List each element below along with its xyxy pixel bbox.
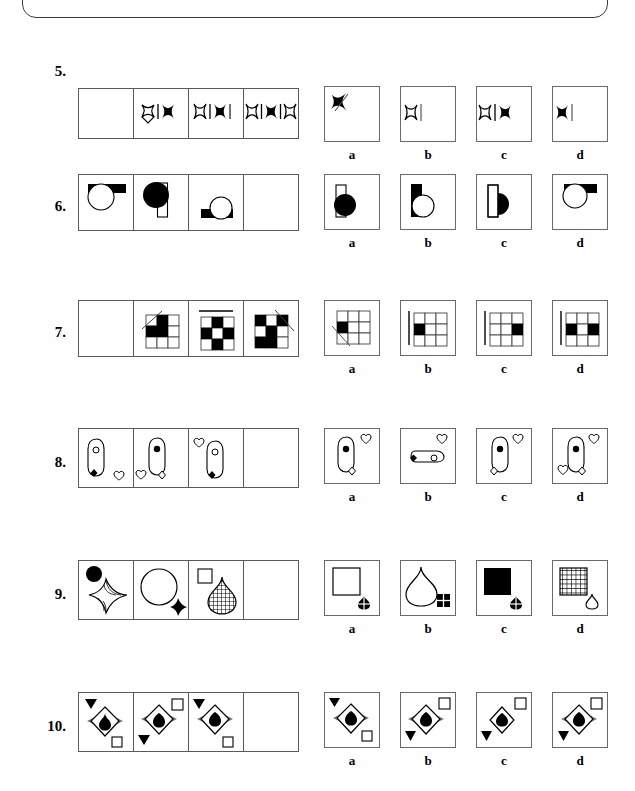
sequence-cell-8-3[interactable]	[188, 428, 244, 488]
option-box-9-d[interactable]	[552, 560, 608, 616]
option-9-c[interactable]: c	[476, 560, 532, 637]
option-box-5-d[interactable]	[552, 86, 608, 142]
option-6-c[interactable]: c	[476, 174, 532, 251]
option-box-8-d[interactable]	[552, 428, 608, 484]
sequence-cell-7-1[interactable]	[78, 300, 134, 357]
option-7-a[interactable]: a	[324, 300, 380, 377]
option-label-6-a: a	[324, 235, 380, 251]
option-label-8-a: a	[324, 489, 380, 505]
option-box-5-b[interactable]	[400, 86, 456, 142]
option-box-6-b[interactable]	[400, 174, 456, 230]
option-box-7-c[interactable]	[476, 300, 532, 356]
option-label-9-d: d	[552, 621, 608, 637]
sequence-cell-6-4[interactable]	[243, 174, 299, 231]
option-box-8-b[interactable]	[400, 428, 456, 484]
sequence-cell-5-2[interactable]	[133, 88, 189, 139]
option-label-5-b: b	[400, 147, 456, 163]
option-box-10-d[interactable]	[552, 692, 608, 748]
sequence-strip-5	[78, 88, 299, 139]
option-7-c[interactable]: c	[476, 300, 532, 377]
option-9-d[interactable]: d	[552, 560, 608, 637]
sequence-cell-9-1[interactable]	[78, 560, 134, 620]
sequence-cell-10-3[interactable]	[188, 692, 244, 752]
option-box-7-d[interactable]	[552, 300, 608, 356]
option-box-10-c[interactable]	[476, 692, 532, 748]
option-box-7-a[interactable]	[324, 300, 380, 356]
option-label-7-c: c	[476, 361, 532, 377]
row-number-10: 10.	[24, 718, 66, 735]
option-label-5-c: c	[476, 147, 532, 163]
option-label-9-a: a	[324, 621, 380, 637]
sequence-cell-6-3[interactable]	[188, 174, 244, 231]
option-label-10-c: c	[476, 753, 532, 769]
sequence-cell-9-4[interactable]	[243, 560, 299, 620]
option-box-10-b[interactable]	[400, 692, 456, 748]
sequence-cell-6-2[interactable]	[133, 174, 189, 231]
option-box-7-b[interactable]	[400, 300, 456, 356]
sequence-strip-6	[78, 174, 299, 231]
sequence-cell-9-2[interactable]	[133, 560, 189, 620]
option-6-d[interactable]: d	[552, 174, 608, 251]
puzzle-row-6: 6. a	[0, 174, 635, 264]
option-8-d[interactable]: d	[552, 428, 608, 505]
puzzle-row-8: 8.	[0, 428, 635, 523]
option-label-7-d: d	[552, 361, 608, 377]
option-box-9-b[interactable]	[400, 560, 456, 616]
option-box-5-c[interactable]	[476, 86, 532, 142]
option-box-9-a[interactable]	[324, 560, 380, 616]
option-9-b[interactable]: b	[400, 560, 456, 637]
option-label-8-b: b	[400, 489, 456, 505]
sequence-cell-6-1[interactable]	[78, 174, 134, 231]
option-10-a[interactable]: a	[324, 692, 380, 769]
row-number-5: 5.	[24, 63, 66, 80]
option-9-a[interactable]: a	[324, 560, 380, 637]
sequence-cell-8-2[interactable]	[133, 428, 189, 488]
option-8-c[interactable]: c	[476, 428, 532, 505]
option-8-a[interactable]: a	[324, 428, 380, 505]
option-label-6-b: b	[400, 235, 456, 251]
option-label-7-b: b	[400, 361, 456, 377]
option-10-b[interactable]: b	[400, 692, 456, 769]
option-box-6-c[interactable]	[476, 174, 532, 230]
option-box-5-a[interactable]	[324, 86, 380, 142]
sequence-cell-7-2[interactable]	[133, 300, 189, 357]
option-6-b[interactable]: b	[400, 174, 456, 251]
option-label-10-a: a	[324, 753, 380, 769]
sequence-cell-8-1[interactable]	[78, 428, 134, 488]
option-box-10-a[interactable]	[324, 692, 380, 748]
option-box-6-a[interactable]	[324, 174, 380, 230]
option-box-6-d[interactable]	[552, 174, 608, 230]
sequence-cell-5-1[interactable]	[78, 88, 134, 139]
option-5-d[interactable]: d	[552, 86, 608, 163]
option-box-8-c[interactable]	[476, 428, 532, 484]
row-number-6: 6.	[24, 198, 66, 215]
sequence-cell-8-4[interactable]	[243, 428, 299, 488]
row-number-7: 7.	[24, 324, 66, 341]
option-10-c[interactable]: c	[476, 692, 532, 769]
option-8-b[interactable]: b	[400, 428, 456, 505]
option-6-a[interactable]: a	[324, 174, 380, 251]
sequence-cell-7-4[interactable]	[243, 300, 299, 357]
row-number-8: 8.	[24, 454, 66, 471]
option-5-c[interactable]: c	[476, 86, 532, 163]
option-label-5-a: a	[324, 147, 380, 163]
sequence-cell-5-4[interactable]	[243, 88, 299, 139]
sequence-cell-10-1[interactable]	[78, 692, 134, 752]
sequence-cell-7-3[interactable]	[188, 300, 244, 357]
option-label-6-c: c	[476, 235, 532, 251]
option-5-b[interactable]: b	[400, 86, 456, 163]
option-label-8-c: c	[476, 489, 532, 505]
sequence-strip-9	[78, 560, 299, 620]
sequence-cell-10-4[interactable]	[243, 692, 299, 752]
option-box-9-c[interactable]	[476, 560, 532, 616]
sequence-cell-10-2[interactable]	[133, 692, 189, 752]
sequence-cell-5-3[interactable]	[188, 88, 244, 139]
option-5-a[interactable]: a	[324, 86, 380, 163]
sequence-cell-9-3[interactable]	[188, 560, 244, 620]
row-number-9: 9.	[24, 586, 66, 603]
option-box-8-a[interactable]	[324, 428, 380, 484]
option-7-b[interactable]: b	[400, 300, 456, 377]
option-10-d[interactable]: d	[552, 692, 608, 769]
option-7-d[interactable]: d	[552, 300, 608, 377]
option-label-9-c: c	[476, 621, 532, 637]
